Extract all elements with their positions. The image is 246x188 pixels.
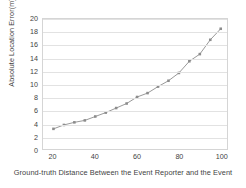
data-point-marker (84, 119, 87, 122)
x-axis-title: Ground-truth Distance Between the Event … (0, 168, 246, 177)
gridline (43, 32, 227, 33)
plot-area (42, 18, 228, 150)
data-point-marker (73, 121, 76, 124)
gridline (43, 111, 227, 112)
y-axis-tick-label: 2 (0, 132, 38, 141)
gridline (43, 72, 227, 73)
data-point-marker (219, 27, 222, 30)
x-axis-tick-label: 60 (122, 152, 152, 161)
gridline (43, 98, 227, 99)
gridline (43, 59, 227, 60)
y-axis-title: Absolute Location Error(m) (7, 0, 16, 98)
gridline (43, 85, 227, 86)
series-line (53, 29, 220, 129)
data-point-marker (209, 39, 212, 42)
data-point-marker (115, 107, 118, 110)
data-point-marker (52, 128, 55, 131)
gridline (43, 19, 227, 20)
line-chart: Absolute Location Error(m) 0246810121416… (0, 0, 246, 188)
data-point-marker (199, 53, 202, 56)
data-point-marker (167, 79, 170, 82)
x-axis-tick-label: 80 (164, 152, 194, 161)
data-point-marker (146, 92, 149, 95)
y-axis-tick-label: 0 (0, 146, 38, 155)
gridline (43, 138, 227, 139)
data-point-marker (125, 102, 128, 105)
x-axis-tick-label: 100 (207, 152, 237, 161)
gridline (43, 125, 227, 126)
data-point-marker (94, 115, 97, 118)
series-absolute-location-error (43, 19, 227, 149)
gridline (43, 45, 227, 46)
data-point-marker (188, 60, 191, 63)
y-axis-tick-label: 6 (0, 106, 38, 115)
x-axis-tick-label: 40 (80, 152, 110, 161)
y-axis-tick-label: 4 (0, 119, 38, 128)
x-axis-tick-label: 20 (38, 152, 68, 161)
